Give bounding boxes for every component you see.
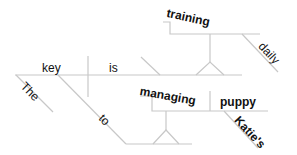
fork-training <box>196 62 224 75</box>
word-is: is <box>109 62 118 74</box>
word-puppy: puppy <box>220 96 256 108</box>
preposition-line-to <box>58 75 126 144</box>
complement-divider <box>141 57 160 75</box>
gerund-step-training <box>163 22 260 34</box>
fork-managing <box>153 130 179 144</box>
word-key: key <box>42 62 61 74</box>
sentence-diagram: key is The to training daily managing pu… <box>0 0 297 155</box>
